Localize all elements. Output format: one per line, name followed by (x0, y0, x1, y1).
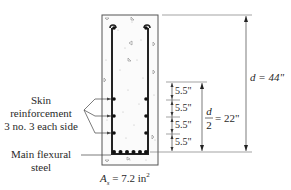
as-value: = 7.2 in (109, 172, 146, 184)
skin-label-line2: reinforcement (0, 107, 82, 120)
main-flexural-steel-label: Main flexural steel (0, 148, 82, 174)
main-label-line2: steel (0, 161, 82, 174)
skin-reinforcement-label: Skin reinforcement 3 no. 3 each side (0, 94, 82, 133)
steel-area-label: As = 7.2 in2 (100, 171, 150, 187)
skin-label-line1: Skin (0, 94, 82, 107)
extension-lines (150, 15, 252, 152)
main-label-line1: Main flexural (0, 148, 82, 161)
spacing-label-4: 5.5" (175, 136, 192, 147)
depth-arrow-top (244, 16, 248, 22)
depth-label: d = 44" (250, 71, 284, 83)
spacing-label-1: 5.5" (175, 85, 192, 96)
half-depth-arrow-top (200, 83, 204, 89)
half-depth-numerator: d (205, 105, 213, 117)
as-exponent: 2 (146, 171, 150, 179)
spacing-label-3: 5.5" (175, 119, 192, 130)
concrete-section (102, 15, 158, 165)
spacing-label-2: 5.5" (175, 102, 192, 113)
depth-arrow-bottom (244, 145, 248, 151)
half-depth-denominator: 2 (205, 119, 213, 131)
as-symbol: A (100, 172, 107, 184)
half-depth-value: = 22" (215, 112, 239, 124)
skin-label-line3: 3 no. 3 each side (0, 120, 82, 133)
top-bar-right (144, 26, 148, 30)
half-depth-arrow-bottom (200, 145, 204, 151)
top-bar-left (112, 26, 116, 30)
